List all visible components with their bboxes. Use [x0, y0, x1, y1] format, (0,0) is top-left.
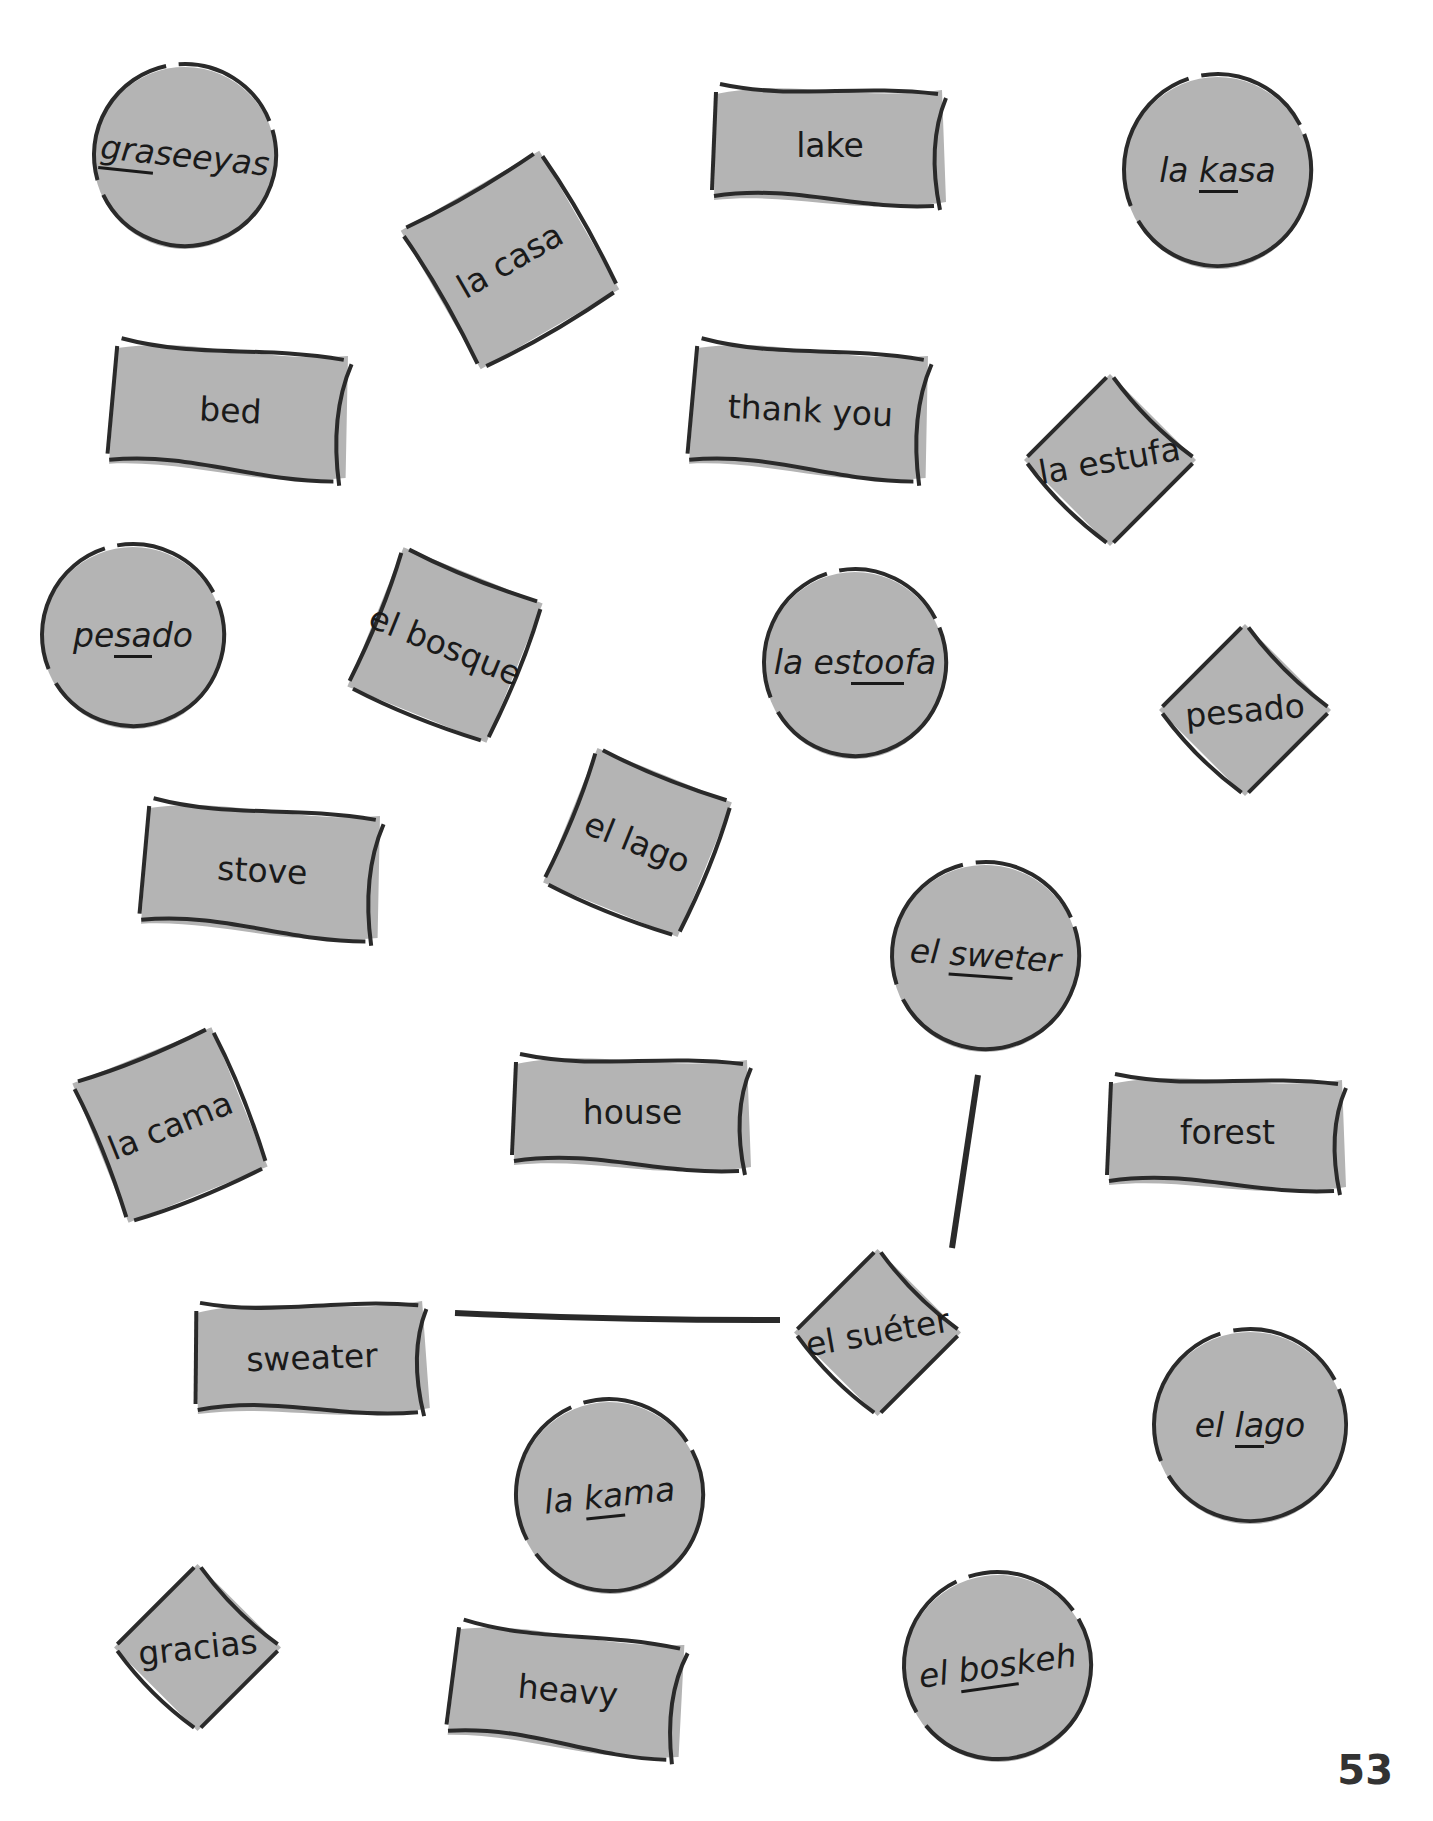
card-label: la kasa — [1159, 151, 1276, 190]
stressed-syllable: gra — [98, 127, 157, 174]
label-prefix: la es — [774, 643, 851, 682]
pronunciation-card-el-lago[interactable]: el lago — [1150, 1325, 1350, 1525]
label-suffix: sa — [1238, 151, 1275, 190]
spanish-card-la-cama[interactable]: la cama — [85, 1040, 255, 1210]
english-card-bed[interactable]: bed — [105, 334, 357, 487]
card-label: bed — [198, 389, 262, 431]
english-card-heavy[interactable]: heavy — [443, 1615, 693, 1765]
pronunciation-card-pesado[interactable]: pesado — [38, 540, 228, 730]
stressed-syllable: ka — [1199, 151, 1238, 193]
pronunciation-card-la-kama[interactable]: la kama — [502, 1385, 717, 1604]
worksheet-page: graseeyasla casalakela kasabedthank youl… — [0, 0, 1433, 1821]
card-label: stove — [216, 848, 308, 892]
stressed-syllable: sa — [114, 616, 151, 658]
english-card-sweater[interactable]: sweater — [190, 1291, 434, 1424]
stressed-syllable: too — [851, 643, 904, 685]
connector-line-sweater-el-sueter — [455, 1313, 780, 1320]
card-label: el lago — [1195, 1406, 1306, 1445]
spanish-card-el-bosque[interactable]: el bosque — [360, 560, 530, 730]
label-suffix: ma — [621, 1469, 677, 1513]
spanish-card-la-casa[interactable]: la casa — [420, 170, 600, 350]
english-card-thank-you[interactable]: thank you — [685, 334, 937, 487]
label-suffix: fa — [904, 643, 936, 682]
spanish-card-el-lago[interactable]: el lago — [555, 760, 720, 925]
label-prefix: el — [909, 931, 952, 973]
label-suffix: keh — [1014, 1635, 1079, 1682]
label-prefix: la — [542, 1478, 586, 1521]
label-prefix: la — [1159, 151, 1199, 190]
label-suffix: ter — [1013, 938, 1062, 980]
english-card-stove[interactable]: stove — [137, 794, 389, 947]
stressed-syllable: la — [1235, 1406, 1264, 1448]
label-suffix: do — [152, 616, 193, 655]
pronunciation-card-el-boskeh[interactable]: el boskeh — [887, 1555, 1107, 1775]
stressed-syllable: swe — [948, 934, 1015, 980]
pronunciation-card-la-kasa[interactable]: la kasa — [1120, 70, 1315, 270]
label-prefix: pe — [73, 616, 114, 655]
pronunciation-card-la-estoofa[interactable]: la estoofa — [760, 565, 950, 760]
stressed-syllable: ka — [582, 1474, 626, 1520]
english-card-forest[interactable]: forest — [1105, 1070, 1350, 1195]
card-label: forest — [1180, 1113, 1275, 1152]
english-card-lake[interactable]: lake — [710, 80, 950, 210]
pronunciation-card-el-sweter[interactable]: el sweter — [881, 851, 1089, 1059]
card-label: house — [583, 1093, 683, 1132]
spanish-card-pesado[interactable]: pesado — [1155, 620, 1335, 800]
spanish-card-la-estufa[interactable]: la estufa — [1020, 370, 1200, 550]
card-label: lake — [796, 126, 864, 165]
label-prefix: el — [916, 1652, 961, 1696]
card-label: la estoofa — [774, 643, 937, 682]
page-number: 53 — [1337, 1747, 1393, 1793]
card-label: pesado — [73, 616, 193, 655]
label-suffix: go — [1264, 1406, 1305, 1445]
card-label: sweater — [246, 1336, 379, 1380]
pronunciation-card-graseeyas[interactable]: graseeyas — [81, 51, 290, 260]
label-prefix: el — [1195, 1406, 1235, 1445]
english-card-house[interactable]: house — [510, 1050, 755, 1175]
connector-line-el-sweter-el-sueter — [952, 1075, 978, 1248]
stressed-syllable: bos — [956, 1644, 1020, 1694]
spanish-card-gracias[interactable]: gracias — [110, 1560, 285, 1735]
spanish-card-el-sueter[interactable]: el suéter — [790, 1245, 965, 1420]
